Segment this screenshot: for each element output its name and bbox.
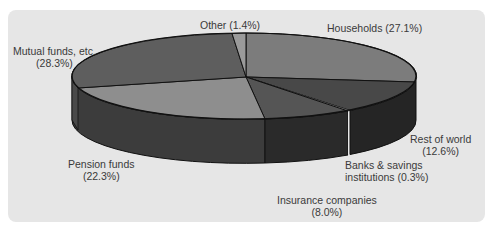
pie-chart-3d [0, 0, 490, 230]
label-mutual-line2: (28.3%) [13, 57, 96, 69]
label-rest-line1: Rest of world [410, 133, 471, 145]
label-households: Households (27.1%) [327, 22, 422, 34]
label-pension-funds: Pension funds (22.3%) [68, 158, 135, 182]
label-banks: Banks & savings institutions (0.3%) [345, 159, 428, 183]
label-rest-line2: (12.6%) [410, 145, 471, 157]
label-mutual-funds: Mutual funds, etc. (28.3%) [13, 45, 96, 69]
label-mutual-line1: Mutual funds, etc. [13, 45, 96, 57]
label-rest-of-world: Rest of world (12.6%) [410, 133, 471, 157]
label-banks-line2: institutions (0.3%) [345, 171, 428, 183]
label-pension-line1: Pension funds [68, 158, 135, 170]
label-insurance-line1: Insurance companies [277, 194, 377, 206]
label-banks-line1: Banks & savings [345, 159, 428, 171]
label-other: Other (1.4%) [200, 19, 260, 31]
label-insurance: Insurance companies (8.0%) [277, 194, 377, 218]
label-pension-line2: (22.3%) [68, 170, 135, 182]
pie-slice-households [246, 33, 417, 82]
label-insurance-line2: (8.0%) [277, 206, 377, 218]
